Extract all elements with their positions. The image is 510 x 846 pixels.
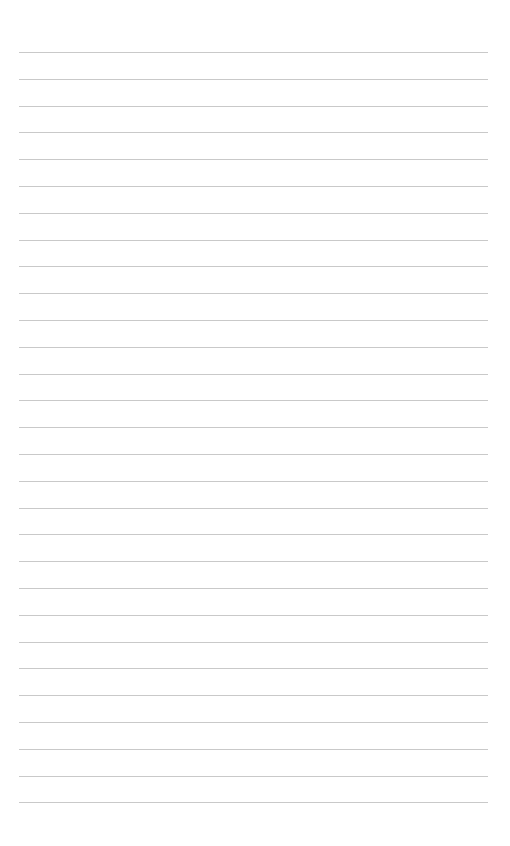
ruled-line [19, 642, 488, 643]
ruled-line [19, 695, 488, 696]
ruled-line [19, 79, 488, 80]
ruled-line [19, 561, 488, 562]
ruled-line [19, 213, 488, 214]
ruled-line [19, 588, 488, 589]
ruled-line [19, 159, 488, 160]
ruled-line [19, 534, 488, 535]
ruled-line [19, 722, 488, 723]
ruled-line [19, 668, 488, 669]
ruled-line [19, 293, 488, 294]
ruled-line [19, 320, 488, 321]
ruled-line [19, 266, 488, 267]
ruled-line [19, 106, 488, 107]
ruled-line [19, 400, 488, 401]
ruled-line [19, 481, 488, 482]
ruled-line [19, 132, 488, 133]
ruled-line [19, 52, 488, 53]
ruled-line [19, 374, 488, 375]
ruled-line [19, 427, 488, 428]
ruled-line [19, 776, 488, 777]
ruled-line [19, 347, 488, 348]
ruled-line [19, 802, 488, 803]
ruled-line [19, 508, 488, 509]
ruled-line [19, 749, 488, 750]
ruled-line [19, 240, 488, 241]
ruled-line [19, 186, 488, 187]
ruled-line [19, 454, 488, 455]
ruled-sheet [0, 0, 510, 846]
ruled-line [19, 615, 488, 616]
